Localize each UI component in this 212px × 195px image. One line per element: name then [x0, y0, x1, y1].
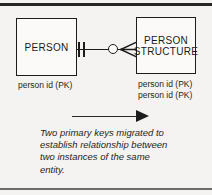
annotation-arrow-shaft — [72, 116, 138, 117]
crows-foot-many-icon — [120, 41, 137, 58]
caption-line: entity. — [40, 164, 210, 176]
page-rule-top — [0, 3, 212, 6]
entity-label-person-structure: PERSON STRUCTURE — [134, 35, 198, 57]
annotation-arrow-head-icon — [136, 110, 149, 122]
er-diagram-figure: PERSON person id (PK) PERSON STRUCTURE p… — [0, 0, 212, 195]
entity-box-person-structure[interactable]: PERSON STRUCTURE — [136, 17, 196, 74]
cardinality-one-tick-icon — [83, 42, 85, 57]
caption-line: two instances of the same — [40, 151, 210, 163]
entity-attributes-person: person id (PK) — [18, 80, 98, 91]
caption-line: Two primary keys migrated to — [40, 127, 210, 139]
entity-box-person[interactable]: PERSON — [16, 18, 77, 76]
cardinality-one-tick-icon — [78, 42, 80, 57]
cardinality-zero-circle-icon — [108, 44, 118, 54]
entity-label-person: PERSON — [24, 42, 68, 53]
entity-attributes-person-structure: person id (PK) person id (PK) — [138, 79, 212, 101]
annotation-caption: Two primary keys migrated to establish r… — [40, 127, 210, 176]
page-rule-bottom — [0, 188, 212, 190]
caption-line: establish relationship between — [40, 139, 210, 151]
